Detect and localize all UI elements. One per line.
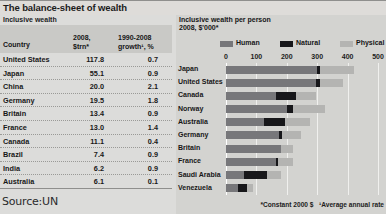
- top-rule: [0, 0, 386, 1]
- x-axis-tick-200: 200: [281, 53, 293, 60]
- chart-plot-area: 0100200300400500 JapanUnited StatesCanad…: [176, 53, 386, 198]
- table-row: Britain13.40.9: [0, 107, 172, 121]
- table-cell-growth: 0.9: [110, 109, 158, 118]
- bar-label: Venezuela: [178, 184, 212, 191]
- bar-label: France: [178, 157, 201, 164]
- bar-segment-physical: [247, 184, 253, 192]
- table-header-row: Country 2008, $trn* 1990-2008 growth¹, %: [0, 25, 172, 53]
- bar-row: Norway: [176, 103, 386, 116]
- bar-segment-natural: [276, 92, 296, 100]
- x-axis-tick-100: 100: [251, 53, 263, 60]
- page-title: The balance-sheet of wealth: [3, 2, 127, 13]
- bar-label: Norway: [178, 105, 203, 112]
- infographic-root: The balance-sheet of wealth Inclusive we…: [0, 0, 386, 214]
- table-row: Canada11.10.4: [0, 135, 172, 149]
- bar-segment-physical: [296, 92, 316, 100]
- stacked-bar: [226, 145, 293, 153]
- title-band: The balance-sheet of wealth: [0, 0, 386, 15]
- per-person-chart-panel: Inclusive wealth per person 2008, $'000*…: [176, 15, 386, 214]
- table-header-wealth-line2: $trn*: [73, 42, 117, 51]
- bar-segment-physical: [278, 158, 293, 166]
- table-row: Brazil7.40.9: [0, 148, 172, 162]
- table-row: Germany19.51.8: [0, 94, 172, 108]
- table-cell-wealth: 19.5: [62, 96, 104, 105]
- legend-label-human: Human: [236, 39, 260, 46]
- bar-label: Canada: [178, 91, 203, 98]
- table-header-growth-line2: growth¹, %: [118, 42, 170, 51]
- table-cell-wealth: 6.2: [62, 164, 104, 173]
- table-row: Japan55.10.9: [0, 67, 172, 81]
- bar-label: Saudi Arabia: [178, 171, 221, 178]
- table-row: United States117.80.7: [0, 53, 172, 67]
- table-cell-growth: 2.1: [110, 82, 158, 91]
- stacked-bar: [226, 66, 354, 74]
- table-cell-country: Japan: [3, 69, 24, 78]
- stacked-bar: [226, 171, 281, 179]
- bar-segment-human: [226, 158, 276, 166]
- table-row: France13.01.4: [0, 121, 172, 135]
- bar-segment-human: [226, 145, 281, 153]
- bar-label: United States: [178, 78, 223, 85]
- bar-segment-human: [226, 79, 316, 87]
- stacked-bar: [226, 118, 310, 126]
- legend-swatch-physical: [340, 41, 353, 47]
- table-cell-wealth: 55.1: [62, 69, 104, 78]
- table-cell-country: Canada: [3, 137, 29, 146]
- bar-row: Japan: [176, 63, 386, 76]
- table-cell-growth: 1.8: [110, 96, 158, 105]
- bar-row: United States: [176, 76, 386, 89]
- bar-label: Britain: [178, 144, 200, 151]
- table-header-country: Country: [3, 41, 30, 48]
- x-axis-tick-300: 300: [311, 53, 323, 60]
- table-cell-growth: 0.9: [110, 69, 158, 78]
- table-subtitle: Inclusive wealth: [3, 16, 57, 23]
- table-cell-wealth: 13.0: [62, 123, 104, 132]
- bar-row: Venezuela: [176, 182, 386, 195]
- table-cell-wealth: 7.4: [62, 150, 104, 159]
- chart-footnotes: *Constant 2000 $ ¹Average annual rate: [260, 201, 384, 208]
- bar-segment-natural: [238, 184, 247, 192]
- stacked-bar: [226, 184, 253, 192]
- bar-segment-physical: [285, 118, 309, 126]
- bar-segment-natural: [244, 171, 267, 179]
- bar-segment-human: [226, 184, 238, 192]
- stacked-bar: [226, 158, 293, 166]
- footnote-growth: ¹Average annual rate: [319, 201, 384, 208]
- table-row: China20.02.1: [0, 80, 172, 94]
- legend-swatch-human: [220, 41, 233, 47]
- bar-segment-physical: [320, 79, 343, 87]
- x-axis-tick-labels: 0100200300400500: [176, 53, 386, 63]
- table-cell-growth: 0.4: [110, 137, 158, 146]
- stacked-bar: [226, 131, 301, 139]
- table-row: Australia6.10.1: [0, 175, 172, 189]
- bar-row: Australia: [176, 116, 386, 129]
- table-header-wealth-line1: 2008,: [73, 33, 117, 42]
- table-cell-growth: 0.1: [110, 177, 158, 186]
- footnote-constant: *Constant 2000 $: [260, 201, 313, 208]
- table-cell-growth: 1.4: [110, 123, 158, 132]
- bar-label: Japan: [178, 65, 198, 72]
- bar-label: Germany: [178, 131, 208, 138]
- chart-title: Inclusive wealth per person: [179, 16, 271, 23]
- table-cell-country: India: [3, 164, 20, 173]
- chart-legend: Human Natural Physical: [220, 40, 386, 50]
- bar-row: Saudi Arabia: [176, 169, 386, 182]
- table-cell-wealth: 13.4: [62, 109, 104, 118]
- table-cell-growth: 0.9: [110, 164, 158, 173]
- bar-segment-physical: [282, 131, 302, 139]
- legend-swatch-natural: [280, 41, 293, 47]
- bar-segment-physical: [320, 66, 354, 74]
- table-cell-country: Germany: [3, 96, 35, 105]
- stacked-bar: [226, 79, 343, 87]
- table-cell-wealth: 20.0: [62, 82, 104, 91]
- table-cell-country: France: [3, 123, 27, 132]
- bar-rows: JapanUnited StatesCanadaNorwayAustraliaG…: [176, 63, 386, 195]
- source-label: Source:UN: [2, 195, 58, 208]
- table-header-growth-line1: 1990-2008: [118, 33, 170, 42]
- wealth-table-panel: Inclusive wealth Country 2008, $trn* 199…: [0, 15, 172, 195]
- x-axis-tick-0: 0: [224, 53, 228, 60]
- table-row: India6.20.9: [0, 162, 172, 176]
- bar-segment-physical: [267, 171, 281, 179]
- x-axis-tick-500: 500: [372, 53, 384, 60]
- x-axis-tick-400: 400: [342, 53, 354, 60]
